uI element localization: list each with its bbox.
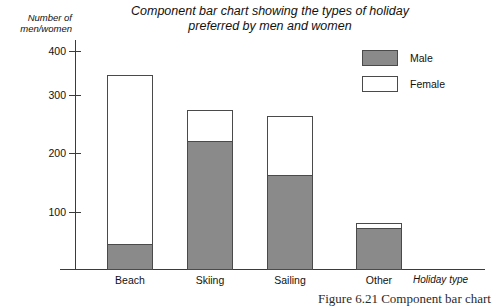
bar-skiing-male-segment[interactable] bbox=[187, 141, 233, 270]
legend-swatch-female-icon bbox=[362, 76, 398, 92]
bar-skiing-female-segment[interactable] bbox=[187, 110, 233, 142]
legend-label-male: Male bbox=[410, 52, 433, 64]
y-axis-line bbox=[75, 40, 76, 269]
figure-caption: Figure 6.21 Component bar chart bbox=[318, 291, 491, 307]
bar-beach-female-segment[interactable] bbox=[107, 75, 153, 245]
chart-title-line-1: Component bar chart showing the types of… bbox=[131, 4, 409, 18]
y-axis-label-line-1: Number of bbox=[6, 12, 72, 23]
x-axis-label: Holiday type bbox=[413, 274, 468, 285]
y-tick-label-400: 400 bbox=[26, 46, 66, 56]
x-tick-label-other: Other bbox=[339, 274, 419, 286]
y-tick-label-100: 100 bbox=[26, 207, 66, 217]
bar-sailing-female-segment[interactable] bbox=[267, 116, 313, 176]
y-tick-mark-200 bbox=[69, 153, 81, 154]
chart-title: Component bar chart showing the types of… bbox=[60, 4, 480, 34]
bar-other-male-segment[interactable] bbox=[356, 228, 402, 270]
legend-swatch-male-icon bbox=[362, 50, 398, 66]
bar-sailing-male-segment[interactable] bbox=[267, 175, 313, 270]
x-tick-label-sailing: Sailing bbox=[250, 274, 330, 286]
y-axis-label: Number of men/women bbox=[6, 12, 72, 34]
chart-title-line-2: preferred by men and women bbox=[60, 19, 480, 34]
x-tick-label-beach: Beach bbox=[90, 274, 170, 286]
y-tick-label-300: 300 bbox=[26, 90, 66, 100]
bar-beach-male-segment[interactable] bbox=[107, 244, 153, 270]
y-tick-mark-0 bbox=[69, 269, 81, 270]
y-tick-label-200: 200 bbox=[26, 148, 66, 158]
y-tick-mark-400 bbox=[69, 51, 81, 52]
y-axis-label-line-2: men/women bbox=[6, 23, 72, 34]
y-tick-mark-300 bbox=[69, 95, 81, 96]
y-tick-mark-100 bbox=[69, 212, 81, 213]
x-tick-label-skiing: Skiing bbox=[170, 274, 250, 286]
legend-label-female: Female bbox=[410, 78, 445, 90]
